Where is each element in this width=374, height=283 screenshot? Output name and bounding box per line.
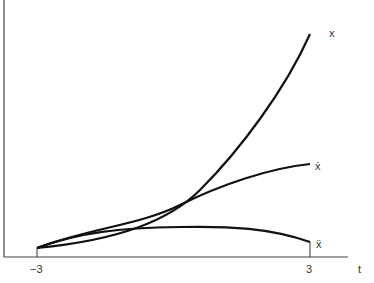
label-x-dot: ẋ: [315, 160, 321, 172]
tick-label-right: 3: [306, 263, 312, 275]
label-x-double-dot: ẍ: [316, 238, 322, 250]
label-x: x: [329, 27, 335, 39]
curve-x: [37, 34, 310, 248]
chart: x ẋ ẍ −3 3 t: [0, 0, 374, 283]
curve-x-double-dot: [37, 227, 310, 248]
tick-label-left: −3: [30, 263, 43, 275]
axis-label-t: t: [358, 263, 361, 275]
